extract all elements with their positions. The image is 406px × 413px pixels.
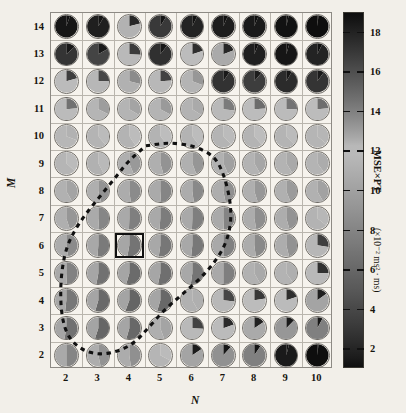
pie-cell xyxy=(51,205,82,232)
pie-glyph xyxy=(242,151,267,176)
pie-glyph xyxy=(305,316,330,341)
pie-cell xyxy=(82,13,113,40)
pie-cell xyxy=(176,95,207,122)
pie-wedge-right xyxy=(192,317,203,329)
pie-glyph xyxy=(274,97,299,122)
pie-wedge-right xyxy=(67,98,78,109)
pie-glyph xyxy=(117,343,142,368)
colorbar-units-text: (×10⁻² ms² · ms) xyxy=(372,228,382,292)
pie-wedge-right xyxy=(65,317,78,339)
pie-wedge-left xyxy=(243,235,256,257)
pie-wedge-left xyxy=(306,15,328,37)
pie-cell xyxy=(302,40,333,67)
pie-cell xyxy=(51,287,82,314)
pie-wedge-right xyxy=(223,98,234,110)
pie-wedge-right xyxy=(65,289,77,311)
pie-glyph xyxy=(148,179,173,204)
pie-glyph xyxy=(274,206,299,231)
pie-glyph xyxy=(305,14,330,39)
colorbar-tick-label: 14 xyxy=(370,105,392,116)
pie-glyph xyxy=(86,206,111,231)
pie-wedge-right xyxy=(255,235,266,257)
pie-cell xyxy=(208,314,239,341)
pie-glyph xyxy=(305,69,330,94)
pie-cell xyxy=(302,232,333,259)
pie-cell xyxy=(208,287,239,314)
pie-wedge-right xyxy=(317,235,328,248)
pie-cell xyxy=(302,150,333,177)
pie-glyph xyxy=(242,206,267,231)
pie-glyph xyxy=(242,97,267,122)
pie-glyph xyxy=(242,233,267,258)
pie-cell xyxy=(51,342,82,369)
pie-glyph xyxy=(211,97,236,122)
x-axis-tick-label: 10 xyxy=(296,372,336,383)
pie-wedge-left xyxy=(118,180,131,202)
pie-grid-figure: 141312111098765432 M 2345678910 N 181614… xyxy=(0,0,406,413)
pie-cell xyxy=(51,177,82,204)
pie-cell xyxy=(82,205,113,232)
pie-wedge-left xyxy=(149,180,161,202)
pie-cell xyxy=(114,40,145,67)
pie-cell xyxy=(114,150,145,177)
pie-glyph xyxy=(54,14,79,39)
colorbar-tick-mark xyxy=(357,71,364,72)
pie-cell xyxy=(145,259,176,286)
pie-wedge-left xyxy=(55,262,67,284)
pie-glyph xyxy=(180,179,205,204)
y-axis-tick-label: 14 xyxy=(0,20,44,31)
pie-cell xyxy=(176,40,207,67)
pie-cell xyxy=(270,95,301,122)
pie-glyph xyxy=(148,69,173,94)
pie-cell xyxy=(82,342,113,369)
pie-wedge-left xyxy=(212,235,223,257)
pie-glyph xyxy=(117,42,142,67)
pie-cell xyxy=(302,314,333,341)
pie-glyph xyxy=(54,151,79,176)
pie-cell xyxy=(239,259,270,286)
pie-glyph xyxy=(242,288,267,313)
pie-glyph xyxy=(180,151,205,176)
pie-wedge-left xyxy=(55,15,77,37)
colorbar-tick-mark xyxy=(343,348,350,349)
pie-glyph xyxy=(54,206,79,231)
pie-wedge-left xyxy=(149,262,160,284)
pie-glyph xyxy=(305,97,330,122)
pie-wedge-right xyxy=(192,207,204,229)
pie-glyph xyxy=(274,14,299,39)
pie-glyph xyxy=(86,233,111,258)
pie-glyph xyxy=(180,316,205,341)
pie-cell xyxy=(208,123,239,150)
pie-cell xyxy=(145,40,176,67)
pie-wedge-left xyxy=(181,235,192,257)
pie-cell xyxy=(51,314,82,341)
pie-cell xyxy=(114,13,145,40)
y-axis-tick-label: 6 xyxy=(0,239,44,250)
pie-glyph xyxy=(117,14,142,39)
pie-cell xyxy=(51,40,82,67)
pie-glyph xyxy=(117,124,142,149)
pie-cell xyxy=(145,95,176,122)
pie-cell xyxy=(239,95,270,122)
pie-cell xyxy=(114,68,145,95)
pie-wedge-left xyxy=(275,317,297,339)
pie-glyph xyxy=(211,124,236,149)
pie-glyph xyxy=(305,261,330,286)
pie-cell xyxy=(270,13,301,40)
pie-cell xyxy=(176,287,207,314)
pie-cell xyxy=(270,342,301,369)
pie-cell xyxy=(302,13,333,40)
pie-cell xyxy=(82,68,113,95)
pie-wedge-right xyxy=(129,180,140,202)
pie-glyph xyxy=(86,316,111,341)
pie-glyph xyxy=(180,233,205,258)
pie-cell xyxy=(270,123,301,150)
pie-cell xyxy=(239,13,270,40)
pie-wedge-left xyxy=(243,43,265,65)
pie-wedge-right xyxy=(129,43,140,55)
colorbar-tick-label: 2 xyxy=(370,343,392,354)
pie-cell xyxy=(208,177,239,204)
pie-cell xyxy=(302,68,333,95)
pie-glyph xyxy=(86,69,111,94)
pie-wedge-right xyxy=(98,70,109,81)
